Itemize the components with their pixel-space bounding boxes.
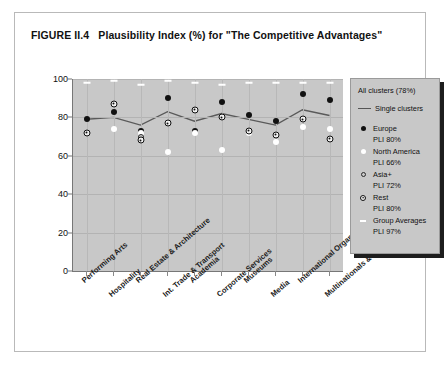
figure-title-text: Plausibility Index (%) for "The Competit…: [98, 29, 382, 41]
data-point-rest: [164, 120, 171, 127]
data-point-rest: [218, 114, 225, 121]
data-point-rest: [191, 106, 198, 113]
figure-label: FIGURE II.4: [31, 29, 89, 41]
legend-marker-wrap: [358, 172, 368, 177]
figure-frame: FIGURE II.4Plausibility Index (%) for "T…: [14, 12, 426, 352]
y-axis: 020406080100: [35, 79, 68, 271]
data-point-rest: [299, 116, 306, 123]
data-point-groupavg: [299, 82, 306, 85]
data-point-rest: [83, 129, 90, 136]
gridline-vertical: [330, 79, 331, 271]
data-point-europe: [84, 116, 90, 122]
x-tick-mark: [140, 271, 141, 276]
data-point-groupavg: [245, 82, 252, 85]
legend-label-single-clusters: Single clusters: [375, 104, 423, 113]
white-circle-icon: [361, 149, 366, 154]
data-point-groupavg: [326, 82, 333, 85]
legend-marker-wrap: [358, 220, 368, 222]
data-point-europe: [327, 97, 333, 103]
legend-series-name: Asia+: [373, 170, 392, 179]
data-point-europe: [300, 91, 306, 97]
data-point-rest: [245, 127, 252, 134]
figure-title: FIGURE II.4Plausibility Index (%) for "T…: [31, 29, 382, 41]
data-point-rest: [137, 137, 144, 144]
y-tick-label: 100: [38, 74, 68, 84]
data-point-europe: [273, 118, 279, 124]
x-tick-mark: [275, 271, 276, 276]
gridline-vertical: [276, 79, 277, 271]
legend-series-pli: PLI 80%: [373, 134, 433, 145]
data-point-namerica: [165, 149, 171, 155]
legend-series-name: Group Averages: [373, 216, 426, 225]
data-point-groupavg: [110, 80, 117, 83]
x-tick-mark: [248, 271, 249, 276]
legend: All clusters (78%) Single clusters Europ…: [350, 78, 440, 254]
x-tick-mark: [221, 271, 222, 276]
data-point-namerica: [111, 126, 117, 132]
data-point-namerica: [300, 124, 306, 130]
data-point-groupavg: [137, 84, 144, 87]
data-point-europe: [246, 112, 252, 118]
data-point-namerica: [192, 130, 198, 136]
legend-marker-wrap: [358, 126, 368, 131]
y-tick-label: 20: [38, 228, 68, 238]
data-point-rest: [110, 100, 117, 107]
legend-marker-wrap: [358, 149, 368, 154]
legend-series-name: Europe: [373, 124, 397, 133]
filled-circle-icon: [361, 126, 366, 131]
legend-entries: EuropePLI 80%North AmericaPLI 66%Asia+PL…: [358, 123, 433, 237]
data-point-europe: [219, 99, 225, 105]
legend-item-rest[interactable]: RestPLI 80%: [358, 192, 433, 214]
gridline-vertical: [168, 79, 169, 271]
data-point-europe: [165, 95, 171, 101]
legend-item-europe[interactable]: EuropePLI 80%: [358, 123, 433, 145]
plot-area: [73, 79, 343, 271]
gridline-vertical: [249, 79, 250, 271]
data-point-rest: [272, 131, 279, 138]
x-axis-label: Media: [269, 278, 291, 299]
data-point-namerica: [327, 126, 333, 132]
line-swatch-icon: [358, 108, 371, 110]
x-tick-mark: [194, 271, 195, 276]
gridline-vertical: [303, 79, 304, 271]
dash-icon: [360, 220, 366, 222]
data-point-namerica: [273, 139, 279, 145]
legend-series-name: North America: [373, 147, 420, 156]
x-tick-mark: [113, 271, 114, 276]
data-point-groupavg: [272, 82, 279, 85]
legend-series-name: Rest: [373, 193, 388, 202]
data-point-groupavg: [83, 82, 90, 85]
gridline-vertical: [87, 79, 88, 271]
x-tick-mark: [86, 271, 87, 276]
legend-series-pli: PLI 72%: [373, 180, 433, 191]
x-tick-mark: [167, 271, 168, 276]
legend-item-single-clusters[interactable]: Single clusters: [358, 104, 433, 113]
legend-item-north-america[interactable]: North AmericaPLI 66%: [358, 146, 433, 168]
data-point-rest: [326, 135, 333, 142]
gridline-vertical: [141, 79, 142, 271]
y-tick-label: 40: [38, 189, 68, 199]
y-tick-label: 60: [38, 151, 68, 161]
data-point-namerica: [219, 147, 225, 153]
y-tick-label: 0: [38, 266, 68, 276]
legend-marker-wrap: [358, 195, 368, 201]
legend-header: All clusters (78%): [358, 86, 433, 95]
data-point-groupavg: [164, 80, 171, 83]
legend-item-asia[interactable]: Asia+PLI 72%: [358, 169, 433, 191]
open-circle-icon: [361, 172, 366, 177]
legend-series-pli: PLI 66%: [373, 157, 433, 168]
data-point-groupavg: [218, 84, 225, 87]
data-point-europe: [111, 109, 117, 115]
legend-series-pli: PLI 80%: [373, 203, 433, 214]
legend-series-pli: PLI 97%: [373, 226, 433, 237]
y-tick-label: 80: [38, 112, 68, 122]
data-point-groupavg: [191, 82, 198, 85]
legend-item-group-averages[interactable]: Group AveragesPLI 97%: [358, 215, 433, 237]
x-tick-mark: [329, 271, 330, 276]
x-tick-mark: [302, 271, 303, 276]
dotted-circle-icon: [360, 195, 366, 201]
